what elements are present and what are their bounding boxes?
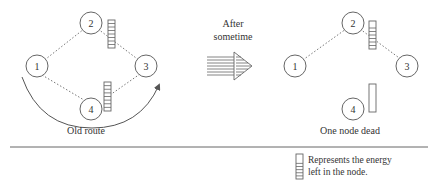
transition: After sometime bbox=[207, 18, 253, 80]
node-1: 1 bbox=[26, 55, 48, 77]
legend-energy-bar-icon bbox=[296, 154, 303, 179]
hatched-arrow-icon bbox=[207, 52, 252, 80]
svg-text:1: 1 bbox=[293, 61, 298, 72]
link-1-2 bbox=[42, 29, 84, 62]
transition-label-line-2: sometime bbox=[214, 31, 253, 42]
svg-text:3: 3 bbox=[405, 61, 410, 72]
link-4-3 bbox=[110, 74, 140, 95]
node-3-after: 3 bbox=[396, 55, 418, 77]
energy-bar-node-4 bbox=[104, 82, 111, 111]
energy-bar-node-4-after bbox=[369, 84, 376, 112]
svg-text:4: 4 bbox=[89, 104, 94, 115]
svg-text:3: 3 bbox=[144, 61, 149, 72]
legend-text-line-2: left in the node. bbox=[308, 167, 368, 177]
diagram-canvas: 1 2 3 4 Old route After sometime bbox=[0, 0, 440, 193]
svg-text:2: 2 bbox=[351, 18, 356, 29]
node-1-after: 1 bbox=[284, 55, 306, 77]
caption-old-route: Old route bbox=[67, 125, 106, 136]
energy-bar-node-2 bbox=[108, 20, 115, 48]
node-4-after-dead: 4 bbox=[342, 98, 364, 120]
link-1-4 bbox=[42, 75, 84, 100]
node-2: 2 bbox=[80, 12, 102, 34]
svg-text:2: 2 bbox=[89, 18, 94, 29]
panel-before: 1 2 3 4 Old route bbox=[22, 12, 159, 136]
node-4: 4 bbox=[80, 98, 102, 120]
caption-one-node-dead: One node dead bbox=[320, 125, 380, 136]
panel-after: 1 2 3 4 One node dead bbox=[284, 12, 418, 136]
legend: Represents the energy left in the node. bbox=[296, 154, 392, 179]
energy-bar-outline bbox=[369, 84, 376, 112]
link-2-3-after bbox=[360, 29, 402, 60]
transition-label-line-1: After bbox=[222, 18, 244, 29]
svg-text:4: 4 bbox=[351, 104, 356, 115]
node-3: 3 bbox=[135, 55, 157, 77]
link-2-3 bbox=[98, 29, 140, 61]
energy-bar-node-2-after bbox=[369, 21, 376, 49]
svg-text:1: 1 bbox=[35, 61, 40, 72]
node-2-after: 2 bbox=[342, 12, 364, 34]
link-1-2-after bbox=[300, 29, 346, 62]
legend-text-line-1: Represents the energy bbox=[308, 155, 392, 165]
